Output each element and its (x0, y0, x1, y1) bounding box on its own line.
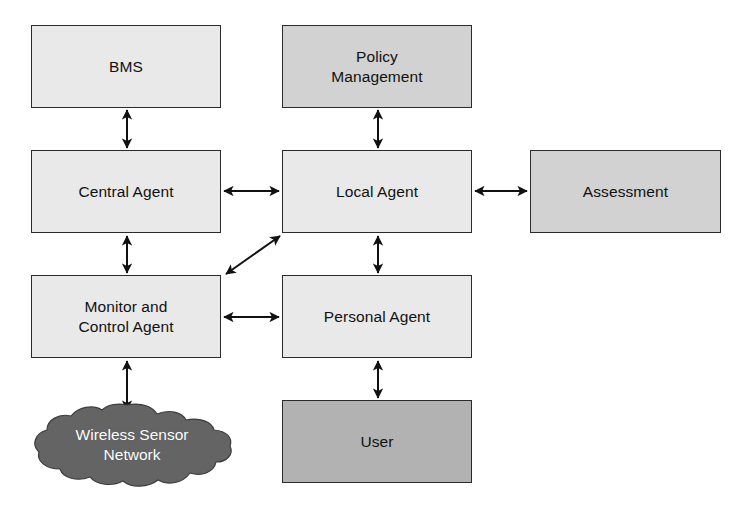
node-assessment[interactable]: Assessment (530, 150, 721, 233)
node-policy-management-label: Policy Management (331, 47, 422, 87)
connector-monitor-agent-local-agent (226, 236, 280, 274)
node-assessment-label: Assessment (583, 182, 668, 202)
node-personal-agent[interactable]: Personal Agent (282, 275, 472, 358)
node-personal-agent-label: Personal Agent (324, 307, 431, 327)
node-local-agent[interactable]: Local Agent (282, 150, 472, 233)
node-user-label: User (360, 432, 393, 452)
node-bms-label: BMS (109, 57, 143, 77)
node-monitor-and-control-agent[interactable]: Monitor and Control Agent (31, 275, 221, 358)
node-wireless-sensor-network[interactable]: Wireless Sensor Network (30, 402, 234, 488)
node-user[interactable]: User (282, 400, 472, 483)
node-wireless-sensor-network-label: Wireless Sensor Network (76, 425, 189, 465)
node-central-agent[interactable]: Central Agent (31, 150, 221, 233)
diagram-canvas: BMS Policy Management Central Agent Loca… (0, 0, 746, 513)
node-monitor-and-control-agent-label: Monitor and Control Agent (78, 297, 173, 337)
node-local-agent-label: Local Agent (336, 182, 418, 202)
node-policy-management[interactable]: Policy Management (282, 25, 472, 108)
node-bms[interactable]: BMS (31, 25, 221, 108)
node-central-agent-label: Central Agent (78, 182, 173, 202)
